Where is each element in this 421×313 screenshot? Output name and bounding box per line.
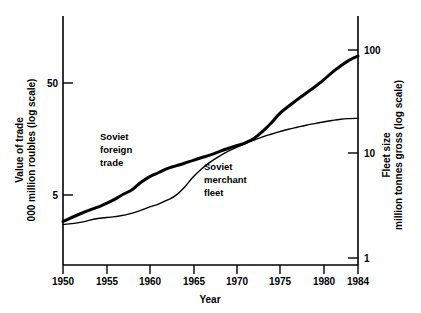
right-tick-label-100: 100: [364, 45, 381, 56]
x-tick-label-1950: 1950: [52, 276, 75, 287]
chart-figure: 50 5 100 10 1 1950 1955 1960 1965 1970 1…: [0, 0, 421, 313]
chart-canvas: 50 5 100 10 1 1950 1955 1960 1965 1970 1…: [0, 0, 421, 313]
x-tick-label-1975: 1975: [269, 276, 292, 287]
annotation-soviet-foreign-trade: Soviet foreign trade: [100, 131, 132, 168]
left-axis-title-line1: Value of trade: [14, 117, 25, 183]
x-tick-label-1984: 1984: [347, 276, 370, 287]
right-axis-ticks: [348, 50, 358, 258]
right-axis-title-line2: million tonnes gross (log scale): [393, 80, 404, 230]
right-tick-label-1: 1: [364, 253, 370, 264]
left-axis-title-line2: 000 million roubles (log scale): [26, 79, 37, 222]
annotation-fleet-line2: merchant: [204, 174, 248, 185]
annotation-trade-line3: trade: [100, 157, 123, 168]
annotation-soviet-merchant-fleet: Soviet merchant fleet: [204, 161, 248, 198]
x-tick-label-1965: 1965: [183, 276, 206, 287]
left-tick-label-5: 5: [52, 190, 58, 201]
x-tick-label-1980: 1980: [313, 276, 336, 287]
annotation-fleet-line1: Soviet: [204, 161, 233, 172]
annotation-fleet-line3: fleet: [204, 187, 224, 198]
x-tick-label-1960: 1960: [139, 276, 162, 287]
annotation-trade-line2: foreign: [100, 144, 132, 155]
x-axis-ticks: [63, 265, 358, 274]
x-tick-label-1970: 1970: [226, 276, 249, 287]
left-tick-label-50: 50: [47, 78, 59, 89]
right-axis-title-line1: Fleet size: [381, 132, 392, 177]
right-tick-label-10: 10: [364, 148, 376, 159]
left-axis-ticks: [63, 83, 73, 195]
x-axis-title: Year: [199, 294, 220, 305]
annotation-trade-line1: Soviet: [100, 131, 129, 142]
x-tick-label-1955: 1955: [96, 276, 119, 287]
